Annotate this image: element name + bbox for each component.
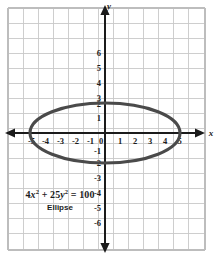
x-tick-label: -2 xyxy=(72,136,79,146)
equation-exponent-x: 2 xyxy=(36,188,39,195)
x-tick-label: -4 xyxy=(42,136,50,146)
equation-constant: 100 xyxy=(79,189,94,200)
x-tick-label: 3 xyxy=(148,136,152,146)
x-tick-label: -3 xyxy=(57,136,64,146)
x-tick-label: -1 xyxy=(87,136,94,146)
equation-text: 4x2 + 25y2 = 100 xyxy=(12,188,108,202)
y-tick-label: -6 xyxy=(94,218,101,228)
coordinate-plane-figure: x y -5 -4 -3 -2 -1 0 1 2 3 4 5 6 5 4 3 2… xyxy=(0,0,222,261)
x-tick-label: 2 xyxy=(133,136,137,146)
equation-annotation: 4x2 + 25y2 = 100 Ellipse xyxy=(12,188,108,213)
graph-screenshot: x y -5 -4 -3 -2 -1 0 1 2 3 4 5 6 5 4 3 2… xyxy=(0,0,222,261)
equation-exponent-y: 2 xyxy=(65,188,68,195)
y-tick-label: -1 xyxy=(94,146,101,156)
y-tick-label: -3 xyxy=(94,173,101,183)
curve-name-label: Ellipse xyxy=(12,203,108,213)
y-tick-label: 6 xyxy=(97,48,101,58)
equation-plus-sign: + xyxy=(42,189,48,200)
equation-equals-sign: = xyxy=(71,189,77,200)
equation-coefficient-y: 25 xyxy=(50,189,60,200)
x-tick-label-origin: 0 xyxy=(99,136,103,146)
x-tick-label: 1 xyxy=(118,136,122,146)
y-tick-label: 5 xyxy=(97,63,101,73)
x-axis-label: x xyxy=(208,128,214,138)
y-tick-label: 1 xyxy=(97,113,101,123)
